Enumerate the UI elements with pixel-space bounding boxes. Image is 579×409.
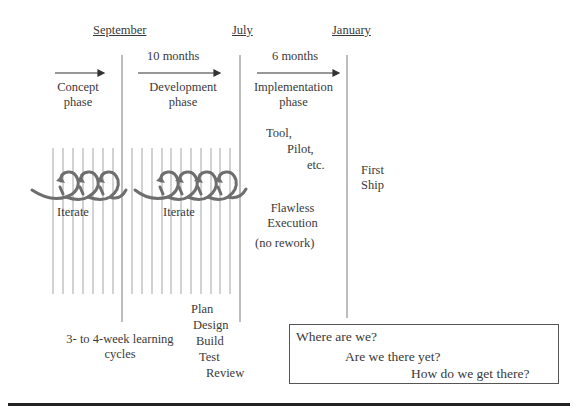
impl-item-tool: Tool, <box>266 126 292 141</box>
milestone-line1: First <box>361 163 384 178</box>
month-september: September <box>93 23 146 38</box>
step-build: Build <box>196 334 224 349</box>
iterate-loops-concept <box>32 172 126 200</box>
flawless-line2: Execution <box>250 216 335 231</box>
phase-concept-line1: Concept <box>48 80 108 95</box>
phase-implementation-line2: phase <box>246 95 341 110</box>
no-rework: (no rework) <box>255 236 314 251</box>
flawless-line1: Flawless <box>250 201 335 216</box>
step-design: Design <box>193 318 228 333</box>
arrow-implementation <box>257 70 339 76</box>
questions-box: Where are we? Are we there yet? How do w… <box>289 324 559 384</box>
learning-cycles-line1: 3- to 4-week learning <box>55 332 185 347</box>
phase-concept: Concept phase <box>48 80 108 110</box>
phase-development: Development phase <box>135 80 231 110</box>
step-plan: Plan <box>191 302 213 317</box>
flawless-execution: Flawless Execution <box>250 201 335 231</box>
month-january: January <box>332 23 371 38</box>
milestone-line2: Ship <box>361 178 384 193</box>
duration-implementation: 6 months <box>272 49 318 64</box>
development-cycle-lines <box>132 148 230 294</box>
iterate-label-concept: Iterate <box>57 205 89 220</box>
phase-implementation-line1: Implementation <box>246 80 341 95</box>
learning-cycles-line2: cycles <box>55 347 185 362</box>
question-where: Where are we? <box>296 329 377 344</box>
phase-implementation: Implementation phase <box>246 80 341 110</box>
iterate-label-development: Iterate <box>163 205 195 220</box>
phase-concept-line2: phase <box>48 95 108 110</box>
impl-item-etc: etc. <box>307 158 325 173</box>
step-review: Review <box>206 366 244 381</box>
milestone-first-ship: First Ship <box>361 163 384 193</box>
phase-development-line1: Development <box>135 80 231 95</box>
phase-development-line2: phase <box>135 95 231 110</box>
arrow-development <box>138 70 220 76</box>
month-july: July <box>232 23 253 38</box>
bottom-rule <box>8 403 570 406</box>
duration-development: 10 months <box>147 49 199 64</box>
question-there-yet: Are we there yet? <box>345 349 441 364</box>
arrow-concept <box>55 70 104 76</box>
loop-arrowheads-development <box>156 176 223 183</box>
question-how: How do we get there? <box>411 366 529 381</box>
learning-cycles-caption: 3- to 4-week learning cycles <box>55 332 185 362</box>
concept-cycle-lines <box>53 148 113 294</box>
step-test: Test <box>199 350 220 365</box>
impl-item-pilot: Pilot, <box>287 142 314 157</box>
